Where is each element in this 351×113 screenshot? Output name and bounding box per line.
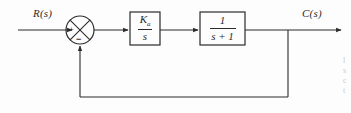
controller-numerator-subscript: a [147, 20, 150, 27]
controller-denominator: s [143, 31, 147, 43]
block-diagram-figure: R(s) C(s) + − Ka s 1 s + 1 l s c t [0, 0, 351, 113]
plant-denominator: s + 1 [211, 31, 234, 43]
margin-caption-fragment: l s c t [343, 56, 351, 96]
summing-junction-plus-sign: + [69, 26, 74, 34]
controller-numerator-symbol: K [140, 13, 147, 25]
controller-block-transfer-function: Ka s [130, 14, 160, 43]
margin-caption-line-2: s [343, 66, 351, 76]
input-signal-label: R(s) [33, 8, 52, 19]
output-signal-label: C(s) [302, 8, 322, 19]
block-diagram-canvas [0, 0, 351, 113]
plant-block-transfer-function: 1 s + 1 [200, 14, 245, 43]
margin-caption-line-4: t [343, 86, 351, 96]
margin-caption-line-1: l [343, 56, 351, 66]
plant-numerator: 1 [220, 15, 226, 27]
controller-numerator: Ka [140, 14, 151, 27]
plant-fraction-bar [210, 28, 236, 29]
margin-caption-line-3: c [343, 76, 351, 86]
summing-junction-minus-sign: − [76, 35, 81, 44]
